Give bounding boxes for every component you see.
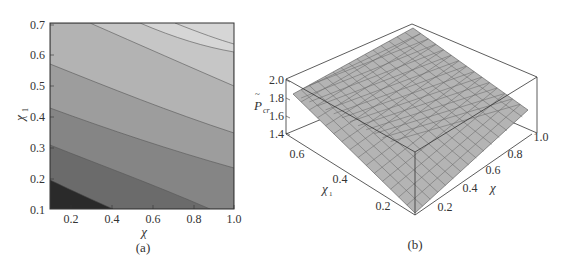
svg-text:~: ~ [255,89,260,99]
x-tick: 0.4 [105,212,120,226]
x-tick: 0.2 [438,200,453,214]
svg-text:1: 1 [329,190,333,198]
x-tick: 0.6 [486,163,501,177]
y-tick: 0.5 [30,79,45,93]
z-axis-label: P ~ cr [253,89,271,115]
y-axis-label: χ 1 [12,108,30,123]
x-tick: 0.2 [64,212,79,226]
svg-text:χ: χ [12,115,27,123]
surface-plot: 2.0 1.8 1.6 1.4 P ~ cr 0.6 0.4 0.2 χ 1 0… [253,24,549,252]
contour-fills [50,23,234,209]
y-axis-label: χ 1 [320,181,333,198]
caption-a: (a) [136,240,150,255]
x-axis-label: χ [139,224,147,239]
x-tick: 0.6 [146,212,161,226]
x-axis-label: χ [488,180,496,195]
z-tick: 1.6 [269,109,284,123]
z-tick: 1.4 [269,127,284,141]
z-tick: 1.8 [269,91,284,105]
x-tick: 1.0 [534,130,549,144]
y-tick: 0.2 [376,199,391,213]
svg-text:1: 1 [21,108,30,112]
svg-text:χ: χ [320,181,328,196]
figure: 0.7 0.6 0.5 0.4 0.3 0.2 0.1 0.2 0.4 0.6 … [0,0,562,269]
svg-text:cr: cr [263,106,271,115]
y-tick: 0.2 [30,172,45,186]
x-tick: 0.4 [463,181,478,195]
contour-plot: 0.7 0.6 0.5 0.4 0.3 0.2 0.1 0.2 0.4 0.6 … [12,18,242,255]
z-tick: 2.0 [269,73,284,87]
caption-b: (b) [407,237,422,252]
y-tick: 0.3 [30,141,45,155]
y-tick: 0.4 [333,172,348,186]
y-tick: 0.6 [290,147,305,161]
y-tick: 0.1 [30,203,45,217]
x-tick: 0.8 [187,212,202,226]
y-tick: 0.7 [30,18,45,32]
y-tick: 0.4 [30,110,45,124]
svg-text:P: P [253,98,262,113]
x-tick: 1.0 [227,212,242,226]
y-tick: 0.6 [30,48,45,62]
x-tick: 0.8 [508,147,523,161]
